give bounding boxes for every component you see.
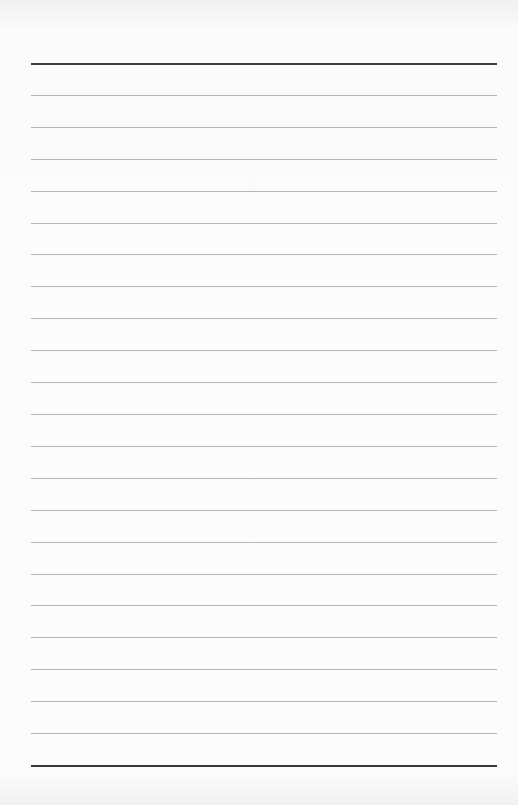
ruled-line — [31, 350, 497, 351]
ruled-line — [31, 669, 497, 670]
bottom-heavy-rule — [31, 765, 497, 767]
lined-paper-page — [0, 0, 518, 805]
ruled-line — [31, 478, 497, 479]
ruled-line — [31, 637, 497, 638]
ruled-line — [31, 254, 497, 255]
ruled-line — [31, 286, 497, 287]
ruled-line — [31, 701, 497, 702]
ruled-line — [31, 510, 497, 511]
ruled-line — [31, 95, 497, 96]
ruled-line — [31, 414, 497, 415]
ruled-line — [31, 191, 497, 192]
ruled-line — [31, 446, 497, 447]
ruled-line — [31, 127, 497, 128]
ruled-line — [31, 574, 497, 575]
ruled-line — [31, 159, 497, 160]
ruled-line — [31, 382, 497, 383]
ruled-line — [31, 318, 497, 319]
ruled-line — [31, 223, 497, 224]
ruled-line — [31, 542, 497, 543]
ruled-line — [31, 605, 497, 606]
top-heavy-rule — [31, 63, 497, 65]
ruled-line — [31, 733, 497, 734]
